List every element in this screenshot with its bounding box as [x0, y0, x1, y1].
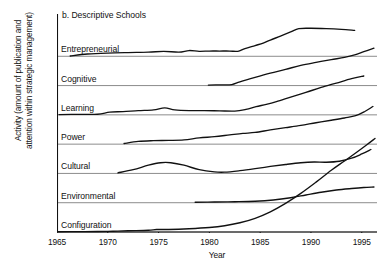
series-line-environmental [195, 187, 374, 202]
y-axis-label: Activity (amount of publication and atte… [14, 0, 35, 181]
x-tick-label-1995: 1995 [353, 237, 371, 247]
series-label-learning: Learning [61, 103, 94, 113]
x-tick-label-1985: 1985 [251, 237, 269, 247]
x-tick-label-1970: 1970 [99, 237, 117, 247]
series-label-cultural: Cultural [61, 161, 90, 171]
series-line-power [124, 107, 373, 144]
y-axis-label-line2: attention within strategic management) [24, 0, 35, 181]
series-label-entrepreneurial: Entrepreneurial [61, 44, 119, 54]
x-axis-title: Year [209, 250, 226, 260]
series-label-configuration: Configuration [61, 220, 111, 230]
series-label-power: Power [61, 132, 85, 142]
x-tick-label-1990: 1990 [302, 237, 320, 247]
series-line-configuration [57, 139, 375, 232]
series-label-environmental: Environmental [61, 191, 115, 201]
series-label-cognitive: Cognitive [61, 74, 96, 84]
y-axis-label-line1: Activity (amount of publication and [14, 20, 23, 141]
x-tick-label-1980: 1980 [200, 237, 218, 247]
x-tick-label-1965: 1965 [48, 237, 66, 247]
figure-panel-b: Activity (amount of publication and atte… [0, 0, 387, 270]
series-line-learning [59, 76, 364, 115]
x-tick-label-1975: 1975 [149, 237, 167, 247]
